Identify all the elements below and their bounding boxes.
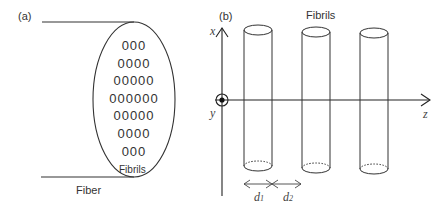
d1-subscript: 1 (260, 194, 264, 203)
axes (215, 28, 430, 196)
z-axis-label: z (423, 108, 428, 120)
fibril-row: 00000 (93, 72, 175, 90)
fibril-row: 00000 (93, 107, 175, 125)
diagram-canvas (0, 0, 446, 208)
x-axis-label: x (210, 25, 215, 37)
fiber-label: Fiber (76, 185, 101, 196)
fibril-row: 0000 (93, 125, 175, 143)
fibril-row: 0000 (93, 55, 175, 73)
fibril-cylinder-3 (360, 28, 388, 174)
d2-subscript: 2 (289, 194, 293, 203)
fibril-cylinder-1 (244, 25, 272, 171)
panel-a-label: (a) (18, 11, 31, 22)
panel-a-fibrils-label: Fibrils (119, 165, 146, 175)
panel-b-fibrils-label: Fibrils (306, 10, 335, 21)
fibril-row: 000000 (93, 90, 175, 108)
panel-b-label: (b) (219, 11, 232, 22)
fibril-grid: 000000000000000000000000000000 (93, 37, 175, 160)
d2-label: d2 (283, 191, 293, 203)
d1-label: d1 (254, 191, 264, 203)
spacing-arrows (244, 180, 301, 188)
y-axis-label: y (210, 107, 215, 119)
fibril-row: 000 (93, 143, 175, 161)
fibril-row: 000 (93, 37, 175, 55)
